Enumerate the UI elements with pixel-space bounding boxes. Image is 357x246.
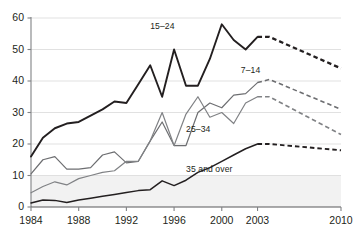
y-axis-tick-label: 10	[0, 169, 24, 181]
y-axis-tick-label: 30	[0, 106, 24, 118]
x-axis-tick-label: 2003	[233, 214, 283, 226]
y-axis-tick-label: 60	[0, 11, 24, 23]
x-axis-tick-label: 1996	[149, 214, 199, 226]
x-axis-tick-label: 1992	[101, 214, 151, 226]
series-label: 7–14	[241, 65, 261, 75]
series-line-1	[31, 24, 258, 156]
y-axis-tick-label: 0	[0, 200, 24, 212]
y-axis-tick-label: 50	[0, 43, 24, 55]
series-projection-1	[258, 37, 341, 69]
y-axis-tick-label: 20	[0, 137, 24, 149]
series-projection-4	[258, 144, 341, 150]
series-projection-2	[258, 79, 341, 109]
x-axis-tick-label: 2010	[316, 214, 357, 226]
series-label: 15–24	[150, 21, 174, 31]
series-label: 25–34	[186, 124, 210, 134]
x-axis-tick-label: 1984	[6, 214, 56, 226]
x-axis-tick-label: 1988	[54, 214, 104, 226]
series-label: 35 and over	[186, 164, 233, 174]
series-projection-3	[258, 97, 341, 135]
y-axis-tick-label: 40	[0, 74, 24, 86]
